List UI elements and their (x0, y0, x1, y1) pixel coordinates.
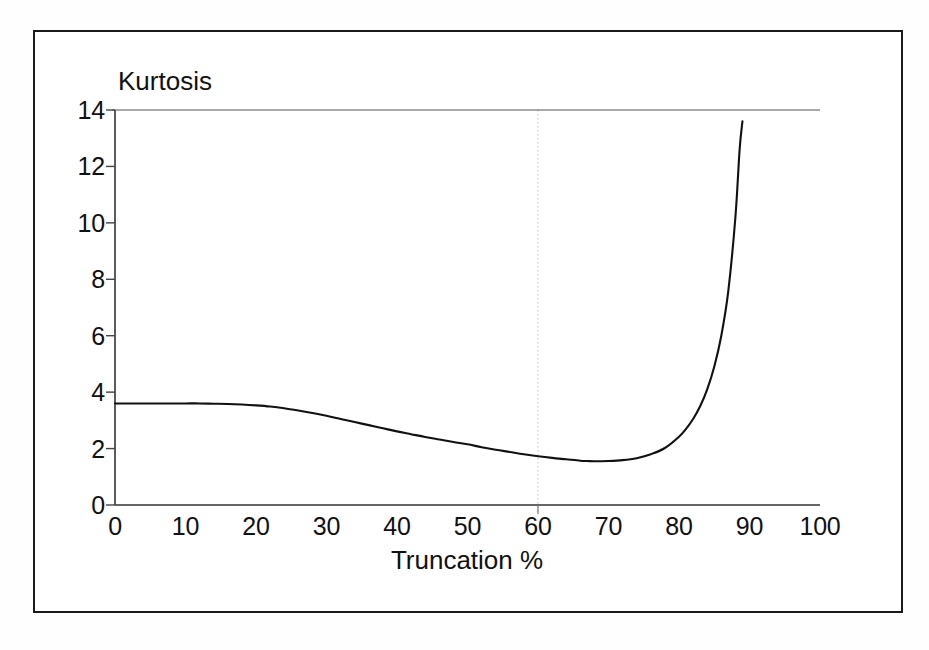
y-tick-label: 2 (55, 434, 105, 463)
x-tick-label: 30 (313, 512, 340, 541)
x-tick-label: 80 (665, 512, 692, 541)
x-tick-label: 60 (524, 512, 551, 541)
y-axis-title: Kurtosis (118, 66, 212, 97)
x-tick-label: 70 (595, 512, 622, 541)
y-tick-label: 6 (55, 321, 105, 350)
x-tick-label: 20 (242, 512, 269, 541)
y-tick-label: 8 (55, 265, 105, 294)
y-tick-label: 0 (55, 491, 105, 520)
x-tick-label: 50 (454, 512, 481, 541)
y-tick-label: 4 (55, 378, 105, 407)
y-tick-label: 12 (55, 152, 105, 181)
y-tick-label: 10 (55, 208, 105, 237)
figure-root: Kurtosis Truncation % 02468101214 010203… (0, 0, 929, 650)
x-tick-label: 40 (383, 512, 410, 541)
x-tick-label: 100 (799, 512, 840, 541)
x-axis-title: Truncation % (391, 545, 543, 576)
x-tick-label: 90 (736, 512, 763, 541)
x-tick-label: 10 (172, 512, 199, 541)
x-tick-label: 0 (108, 512, 122, 541)
y-tick-label: 14 (55, 96, 105, 125)
